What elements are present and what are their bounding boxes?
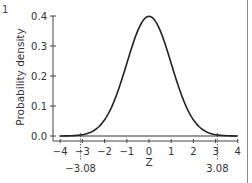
critical-value-label: −3.08 — [65, 163, 96, 174]
x-tick-label: −3 — [75, 146, 90, 157]
y-tick-label: 0.1 — [31, 101, 47, 112]
x-tick-label: 4 — [235, 146, 241, 157]
x-tick-label: −1 — [119, 146, 134, 157]
y-tick-label: 0.3 — [31, 41, 47, 52]
y-tick-label: 0.2 — [31, 71, 47, 82]
x-tick-label: −4 — [53, 146, 68, 157]
y-axis-title: Probability density — [14, 28, 26, 125]
x-tick-label: 1 — [168, 146, 174, 157]
x-axis-title: Z — [145, 156, 152, 168]
panel-label: 1 — [2, 4, 8, 15]
x-tick-label: 2 — [190, 146, 196, 157]
density-curve — [60, 16, 238, 136]
y-tick-label: 0.4 — [31, 11, 47, 22]
y-tick-label: 0.0 — [31, 131, 47, 142]
x-tick-label: −2 — [97, 146, 112, 157]
critical-value-label: 3.08 — [206, 163, 228, 174]
y-axis: 0.00.10.20.30.4 — [31, 11, 56, 142]
normal-density-chart: 1 Probability density 0.00.10.20.30.4 −4… — [0, 0, 252, 183]
